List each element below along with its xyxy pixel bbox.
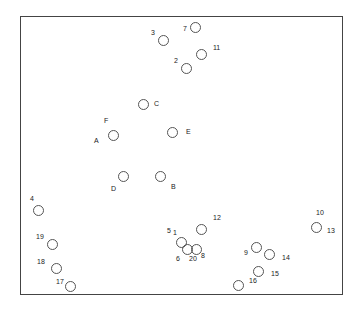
- node-circle: [264, 249, 275, 260]
- node-label: D: [111, 185, 116, 192]
- node-circle: [118, 171, 129, 182]
- node-circle: [47, 239, 58, 250]
- diagram-frame: [20, 16, 343, 295]
- node-label: 6: [176, 255, 180, 262]
- node-circle: [251, 242, 262, 253]
- node-label: 20: [189, 255, 197, 262]
- node-circle: [253, 266, 264, 277]
- node-label: 13: [327, 227, 335, 234]
- node-circle: [155, 171, 166, 182]
- node-label: 16: [249, 277, 257, 284]
- node-label: 9: [244, 249, 248, 256]
- node-label: 2: [174, 57, 178, 64]
- node-circle: [181, 63, 192, 74]
- node-label: 14: [282, 254, 290, 261]
- node-circle: [190, 22, 201, 33]
- node-label: A: [94, 137, 99, 144]
- node-label: 12: [213, 214, 221, 221]
- node-label: 18: [37, 258, 45, 265]
- node-circle: [138, 99, 149, 110]
- node-label: C: [154, 100, 159, 107]
- node-circle: [191, 244, 202, 255]
- node-circle: [158, 35, 169, 46]
- node-label: 15: [271, 270, 279, 277]
- node-label: 8: [201, 252, 205, 259]
- node-label: 1: [173, 229, 177, 236]
- node-circle: [311, 222, 322, 233]
- node-label: 3: [151, 29, 155, 36]
- node-label: B: [171, 183, 176, 190]
- node-label: 17: [56, 278, 64, 285]
- node-circle: [65, 281, 76, 292]
- node-circle: [167, 127, 178, 138]
- node-circle: [51, 263, 62, 274]
- node-label: 19: [36, 233, 44, 240]
- node-label: 10: [316, 209, 324, 216]
- node-circle: [196, 49, 207, 60]
- node-label: 5: [167, 227, 171, 234]
- node-circle: [33, 205, 44, 216]
- node-circle: [108, 130, 119, 141]
- node-label: 7: [183, 25, 187, 32]
- node-circle: [196, 224, 207, 235]
- node-label: 11: [213, 44, 220, 51]
- node-label: F: [104, 117, 108, 124]
- node-label: 4: [30, 195, 34, 202]
- node-circle: [233, 280, 244, 291]
- node-label: E: [186, 128, 191, 135]
